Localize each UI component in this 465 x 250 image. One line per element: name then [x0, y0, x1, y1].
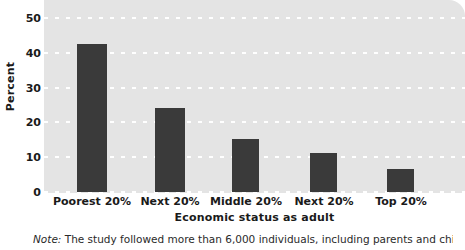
- gridline-20: [44, 121, 465, 123]
- bar-top-20[interactable]: [387, 169, 414, 192]
- gridline-30: [44, 87, 465, 89]
- y-tick-label: 10: [1, 152, 41, 163]
- footnote-prefix: Note:: [33, 233, 61, 245]
- bar-poorest-20[interactable]: [77, 44, 107, 192]
- y-tick-label: 20: [1, 117, 41, 128]
- gridline-40: [44, 52, 465, 54]
- footnote-text: The study followed more than 6,000 indiv…: [61, 233, 453, 245]
- y-tick-label: 50: [1, 13, 41, 24]
- y-axis-title: Percent: [4, 55, 17, 119]
- plot-area: [44, 0, 465, 193]
- gridline-50: [44, 17, 465, 19]
- x-axis-title: Economic status as adult: [44, 211, 465, 224]
- bar-chart-figure: 50 40 30 20 10 0 Percent Poorest 20% Nex…: [0, 0, 465, 250]
- bar-next-20-second[interactable]: [155, 108, 185, 192]
- x-tick-label-top-20: Top 20%: [341, 195, 461, 208]
- x-axis: Poorest 20% Next 20% Middle 20% Next 20%…: [44, 195, 465, 211]
- bar-middle-20[interactable]: [232, 139, 259, 192]
- bar-next-20-fourth[interactable]: [310, 153, 337, 192]
- chart-footnote: Note: The study followed more than 6,000…: [33, 233, 453, 246]
